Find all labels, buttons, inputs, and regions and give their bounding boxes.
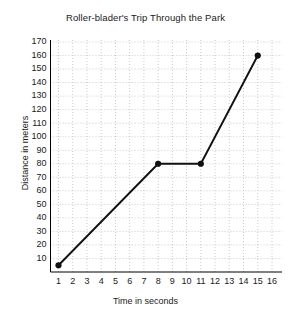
y-tick-label: 130 <box>31 90 46 100</box>
y-tick-label: 80 <box>36 158 46 168</box>
y-tick-labels: 1020304050607080901001101201301401501601… <box>31 36 46 262</box>
y-tick-label: 30 <box>36 226 46 236</box>
x-tick-label: 8 <box>156 276 161 286</box>
data-point-marker <box>255 52 261 58</box>
data-point-marker <box>198 161 204 167</box>
y-tick-label: 140 <box>31 77 46 87</box>
x-tick-label: 14 <box>239 276 249 286</box>
x-tick-label: 15 <box>253 276 263 286</box>
x-tick-label: 13 <box>224 276 234 286</box>
y-tick-label: 100 <box>31 131 46 141</box>
x-tick-label: 10 <box>182 276 192 286</box>
plot-area: 1020304050607080901001101201301401501601… <box>0 0 291 314</box>
x-tick-label: 3 <box>84 276 89 286</box>
x-tick-label: 16 <box>267 276 277 286</box>
y-tick-label: 90 <box>36 145 46 155</box>
y-tick-label: 110 <box>32 118 46 128</box>
y-tick-label: 20 <box>36 239 46 249</box>
vertical-gridlines <box>59 40 273 272</box>
x-tick-label: 5 <box>113 276 118 286</box>
y-tick-label: 50 <box>36 199 46 209</box>
y-tick-label: 70 <box>36 172 46 182</box>
x-tick-label: 6 <box>127 276 132 286</box>
x-tick-label: 2 <box>70 276 75 286</box>
y-tick-label: 40 <box>36 212 46 222</box>
y-tick-label: 120 <box>31 104 46 114</box>
y-tick-label: 60 <box>36 185 46 195</box>
y-tick-label: 160 <box>31 50 46 60</box>
x-tick-label: 4 <box>99 276 104 286</box>
x-tick-label: 9 <box>170 276 175 286</box>
x-tick-label: 1 <box>56 276 61 286</box>
y-tick-label: 170 <box>31 36 46 46</box>
y-tick-label: 10 <box>36 253 46 263</box>
x-tick-label: 12 <box>210 276 220 286</box>
x-tick-labels: 12345678910111213141516 <box>56 276 277 286</box>
x-tick-label: 7 <box>141 276 146 286</box>
x-tick-label: 11 <box>196 276 205 286</box>
y-tick-label: 150 <box>31 63 46 73</box>
data-point-marker <box>55 262 61 268</box>
chart-container: Roller-blader's Trip Through the Park Di… <box>0 0 291 314</box>
data-point-marker <box>155 161 161 167</box>
